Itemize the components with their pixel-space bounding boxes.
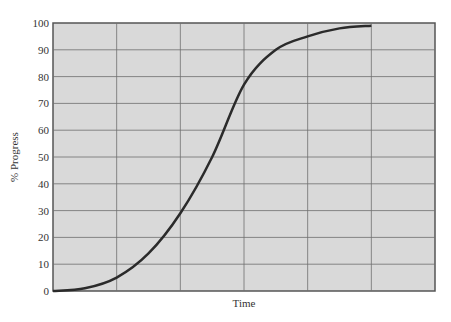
y-tick-label: 90: [38, 44, 50, 56]
y-tick-label: 70: [38, 97, 50, 109]
x-axis-label: Time: [233, 297, 256, 309]
y-tick-label: 40: [38, 178, 50, 190]
y-tick-label: 10: [38, 258, 50, 270]
y-tick-label: 80: [38, 71, 50, 83]
y-tick-label: 20: [38, 231, 50, 243]
y-tick-label: 50: [38, 151, 50, 163]
s-curve-chart: 0102030405060708090100 Time % Progress: [0, 0, 451, 322]
y-tick-labels: 0102030405060708090100: [33, 17, 50, 297]
y-tick-label: 100: [33, 17, 50, 29]
y-tick-label: 0: [44, 285, 50, 297]
y-tick-label: 30: [38, 205, 50, 217]
y-tick-label: 60: [38, 124, 50, 136]
y-axis-label: % Progress: [8, 132, 20, 182]
